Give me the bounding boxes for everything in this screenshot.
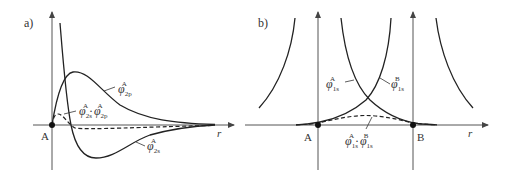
curve-phi-2s [60,23,215,158]
panel-a-label: a) [24,16,33,30]
panel-b: b) A B r φ1sA φ1sB φ1sA·φ1sB [256,12,488,170]
leader-phi-2s [136,142,145,146]
nucleus-a-point [49,122,55,128]
r-axis-label: r [468,127,473,139]
panel-a: a) A r φ2pA φ2sA φ2sA·φ2pA [24,12,256,170]
point-a-label: A [304,131,312,143]
point-a-label: A [41,130,49,142]
nucleus-a-point [315,122,321,128]
nucleus-b-point [410,122,416,128]
label-phi-1s-b: φ1sB [391,75,404,93]
curve-product-2s-2p [52,114,213,129]
label-product-1s-1s: φ1sA·φ1sB [345,132,373,150]
leader-phi-1s-b [380,78,390,84]
label-phi-2s: φ2sA [147,137,160,155]
orbital-diagram: a) A r φ2pA φ2sA φ2sA·φ2pA b) [0,0,513,179]
curve-phi-1s-a-left [259,18,295,108]
curve-phi-1s-b-right [436,18,473,108]
leader-product-1s [366,117,372,129]
label-phi-1s-a: φ1sA [326,75,339,93]
leader-product [64,111,76,114]
panel-b-label: b) [258,16,268,30]
point-b-label: B [417,131,424,143]
r-axis-label: r [217,127,222,139]
leader-phi-1s-a [345,80,354,82]
curve-phi-1s-a-right [341,18,437,125]
curve-phi-2p [52,72,215,125]
leader-phi-2p [104,87,115,91]
label-phi-2p: φ2pA [118,80,132,98]
label-product-2s-2p: φ2sA·φ2pA [79,102,108,120]
